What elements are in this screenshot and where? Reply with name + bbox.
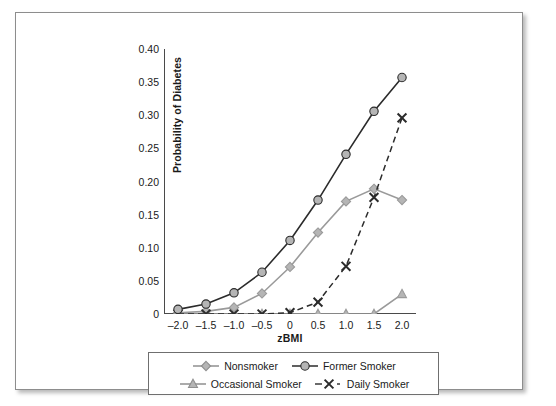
x-tick-label: 0.5: [311, 319, 326, 331]
data-point-circle: [314, 196, 322, 204]
y-tick-label: 0.30: [139, 109, 159, 121]
legend-marker-diamond-icon: [191, 359, 221, 373]
legend-marker-triangle-icon: [178, 377, 208, 391]
chart-canvas: [164, 49, 416, 314]
data-point-circle: [230, 289, 238, 297]
data-point-circle: [174, 305, 182, 313]
x-tick-label: –1.5: [196, 319, 216, 331]
x-tick-label: 2.0: [395, 319, 410, 331]
data-point-diamond: [397, 195, 406, 204]
legend-item-former-smoker[interactable]: Former Smoker: [290, 359, 396, 373]
y-tick-label: 0.40: [139, 43, 159, 55]
data-point-circle: [258, 268, 266, 276]
legend-item-occasional-smoker[interactable]: Occasional Smoker: [178, 377, 302, 391]
x-tick-label: –1.0: [224, 319, 244, 331]
data-point-circle: [202, 300, 210, 308]
x-axis-title: zBMI: [164, 332, 416, 344]
y-tick-label: 0.05: [139, 275, 159, 287]
series-line: [178, 118, 402, 314]
x-tick-label: –0.5: [252, 319, 272, 331]
data-point-circle: [342, 150, 350, 158]
data-point-circle: [370, 107, 378, 115]
y-tick-label: 0.25: [139, 142, 159, 154]
series-line: [178, 189, 402, 313]
y-tick-label: 0.35: [139, 76, 159, 88]
y-tick-label: 0.10: [139, 242, 159, 254]
legend-marker-circle-icon: [290, 359, 320, 373]
y-axis-title: Probability of Diabetes: [171, 40, 183, 190]
data-point-circle: [286, 236, 294, 244]
x-tick-label: 0: [287, 319, 293, 331]
legend-row-bottom: Occasional Smoker Daily Smoker: [149, 375, 438, 393]
legend-label-former-smoker: Former Smoker: [323, 360, 396, 372]
y-tick-label: 0: [153, 308, 159, 320]
chart-legend: Nonsmoker Former Smoker Occasional Smoke…: [148, 352, 439, 395]
legend-label-daily-smoker: Daily Smoker: [347, 378, 409, 390]
y-tick-label: 0.20: [139, 176, 159, 188]
legend-label-occasional-smoker: Occasional Smoker: [211, 378, 302, 390]
data-point-triangle: [398, 289, 407, 297]
legend-marker-x-icon: [314, 377, 344, 391]
data-point-circle: [398, 73, 406, 81]
legend-row-top: Nonsmoker Former Smoker: [149, 357, 438, 375]
x-tick-label: 1.5: [367, 319, 382, 331]
y-tick-label: 0.15: [139, 209, 159, 221]
plot-area: Probability of Diabetes zBMI 00.050.100.…: [164, 49, 416, 314]
data-point-diamond: [202, 361, 211, 370]
figure-page: Probability of Diabetes zBMI 00.050.100.…: [0, 0, 556, 406]
series-line: [178, 77, 402, 309]
figure-frame: Probability of Diabetes zBMI 00.050.100.…: [15, 12, 523, 390]
legend-item-nonsmoker[interactable]: Nonsmoker: [191, 359, 278, 373]
legend-item-daily-smoker[interactable]: Daily Smoker: [314, 377, 409, 391]
legend-label-nonsmoker: Nonsmoker: [224, 360, 278, 372]
data-point-circle: [301, 362, 309, 370]
x-tick-label: 1.0: [339, 319, 354, 331]
series-daily-smoker: [174, 114, 407, 315]
x-tick-label: –2.0: [168, 319, 188, 331]
